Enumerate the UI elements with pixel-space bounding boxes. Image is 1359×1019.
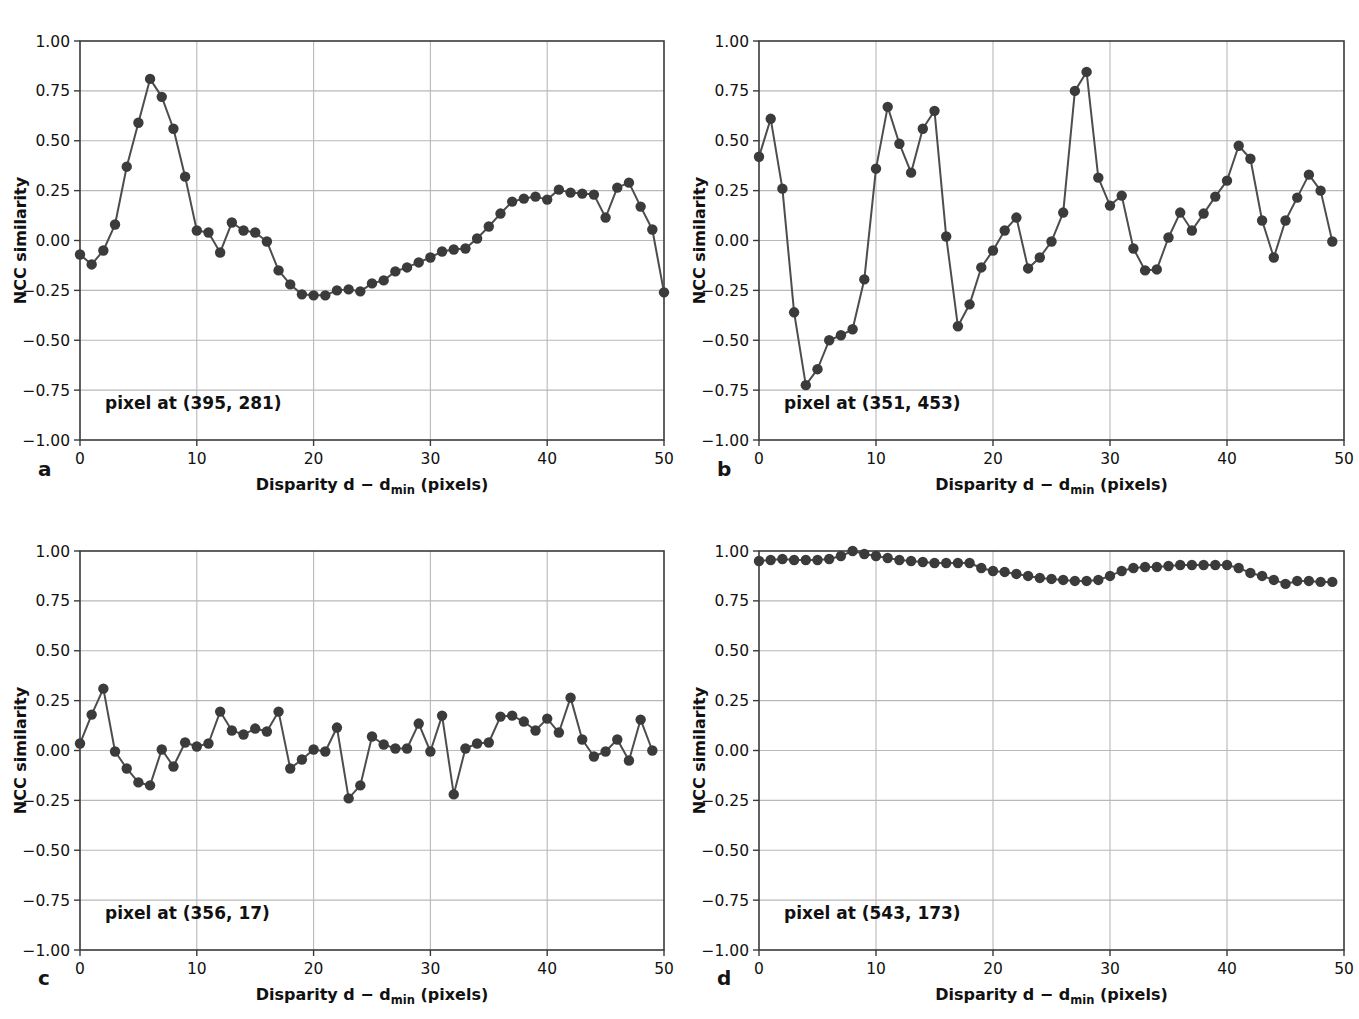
svg-text:0.25: 0.25 [35,182,70,200]
svg-text:0: 0 [754,450,764,468]
svg-text:1.00: 1.00 [714,543,749,561]
panel-c: 1.000.750.500.250.00−0.25−0.50−0.75−1.00… [0,510,679,1019]
svg-text:0.75: 0.75 [35,82,70,100]
panel-letter-c: c [38,966,50,990]
svg-text:0.00: 0.00 [35,742,70,760]
svg-text:Disparity d − dmin (pixels): Disparity d − dmin (pixels) [935,985,1167,1007]
svg-text:50: 50 [654,450,674,468]
chart-b: 1.000.750.500.250.00−0.25−0.50−0.75−1.00… [679,0,1359,510]
svg-text:NCC similarity: NCC similarity [690,176,709,304]
svg-text:0.50: 0.50 [35,642,70,660]
svg-text:0: 0 [75,450,85,468]
svg-text:0.50: 0.50 [714,132,749,150]
panel-letter-b: b [717,457,731,481]
svg-text:30: 30 [1100,450,1120,468]
svg-text:pixel at (395, 281): pixel at (395, 281) [105,393,282,413]
svg-text:−0.75: −0.75 [702,892,750,910]
svg-text:Disparity d − dmin (pixels): Disparity d − dmin (pixels) [935,475,1167,497]
svg-text:−0.75: −0.75 [23,382,71,400]
svg-text:30: 30 [1100,960,1120,978]
svg-text:30: 30 [421,960,441,978]
svg-text:Disparity d − dmin (pixels): Disparity d − dmin (pixels) [256,475,488,497]
chart-c: 1.000.750.500.250.00−0.25−0.50−0.75−1.00… [0,510,679,1019]
panel-a: 1.000.750.500.250.00−0.25−0.50−0.75−1.00… [0,0,679,510]
svg-text:10: 10 [866,960,886,978]
svg-text:0.25: 0.25 [714,182,749,200]
svg-text:−1.00: −1.00 [23,432,71,450]
svg-text:1.00: 1.00 [35,33,70,51]
svg-text:0.25: 0.25 [714,692,749,710]
svg-text:0: 0 [75,960,85,978]
chart-a: 1.000.750.500.250.00−0.25−0.50−0.75−1.00… [0,0,679,510]
svg-text:−0.50: −0.50 [23,332,71,350]
panel-letter-d: d [717,966,731,990]
svg-text:0.75: 0.75 [35,592,70,610]
svg-text:−1.00: −1.00 [23,942,71,960]
panel-letter-a: a [38,457,52,481]
svg-text:0.50: 0.50 [35,132,70,150]
svg-text:10: 10 [187,960,207,978]
svg-text:0.75: 0.75 [714,592,749,610]
svg-text:40: 40 [537,960,557,978]
svg-text:20: 20 [983,960,1003,978]
svg-text:20: 20 [983,450,1003,468]
svg-text:0.75: 0.75 [714,82,749,100]
svg-text:0.00: 0.00 [714,742,749,760]
svg-text:NCC similarity: NCC similarity [690,686,709,814]
svg-text:50: 50 [1334,960,1354,978]
svg-text:NCC similarity: NCC similarity [11,176,30,304]
svg-text:0.25: 0.25 [35,692,70,710]
svg-text:20: 20 [304,450,324,468]
figure-panel-grid: 1.000.750.500.250.00−0.25−0.50−0.75−1.00… [0,0,1359,1019]
svg-text:−0.75: −0.75 [23,892,71,910]
svg-text:−0.50: −0.50 [702,842,750,860]
svg-text:−0.50: −0.50 [702,332,750,350]
svg-text:40: 40 [1217,450,1237,468]
svg-text:0.00: 0.00 [35,232,70,250]
svg-text:40: 40 [1217,960,1237,978]
svg-text:Disparity d − dmin (pixels): Disparity d − dmin (pixels) [256,985,488,1007]
svg-text:10: 10 [187,450,207,468]
svg-text:20: 20 [304,960,324,978]
svg-text:30: 30 [421,450,441,468]
svg-text:−1.00: −1.00 [702,942,750,960]
svg-text:−0.75: −0.75 [702,382,750,400]
svg-text:pixel at (356, 17): pixel at (356, 17) [105,903,270,923]
svg-text:50: 50 [654,960,674,978]
svg-text:pixel at (351, 453): pixel at (351, 453) [784,393,961,413]
svg-text:1.00: 1.00 [35,543,70,561]
svg-text:0.00: 0.00 [714,232,749,250]
svg-text:0: 0 [754,960,764,978]
svg-text:10: 10 [866,450,886,468]
svg-text:pixel at (543, 173): pixel at (543, 173) [784,903,961,923]
svg-text:40: 40 [537,450,557,468]
chart-d: 1.000.750.500.250.00−0.25−0.50−0.75−1.00… [679,510,1359,1019]
svg-text:−1.00: −1.00 [702,432,750,450]
panel-d: 1.000.750.500.250.00−0.25−0.50−0.75−1.00… [679,510,1359,1019]
svg-text:50: 50 [1334,450,1354,468]
panel-b: 1.000.750.500.250.00−0.25−0.50−0.75−1.00… [679,0,1359,510]
svg-text:NCC similarity: NCC similarity [11,686,30,814]
svg-text:0.50: 0.50 [714,642,749,660]
svg-text:−0.50: −0.50 [23,842,71,860]
svg-text:1.00: 1.00 [714,33,749,51]
